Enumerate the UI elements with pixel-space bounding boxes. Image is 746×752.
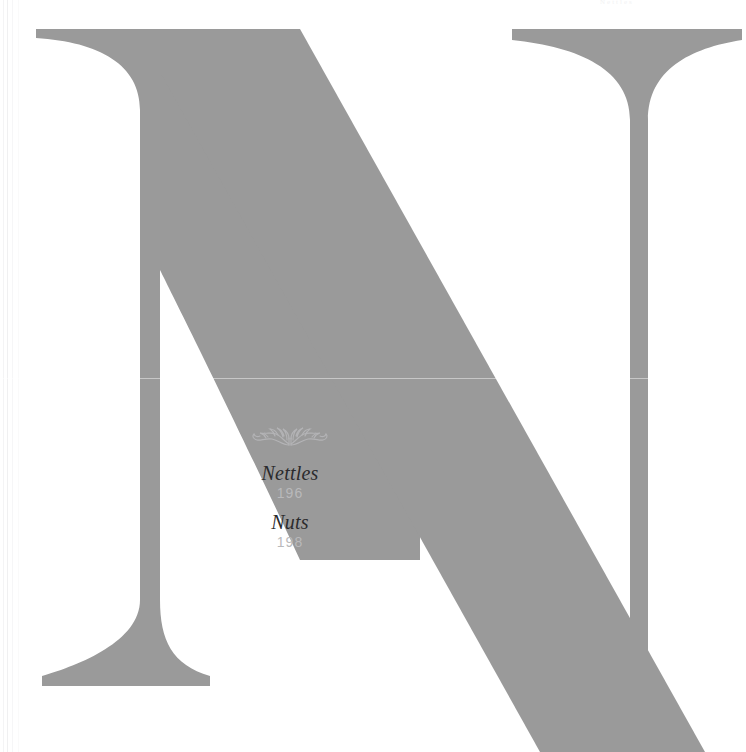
contents-entry-title: Nettles <box>186 462 394 484</box>
section-divider-page: Nettles <box>0 0 746 752</box>
contents-entry[interactable]: Nettles 196 <box>186 462 394 502</box>
section-contents-block: Nettles 196 Nuts 198 <box>186 424 394 551</box>
contents-entry-page-number: 198 <box>186 534 394 551</box>
contents-entry-title: Nuts <box>186 511 394 533</box>
drop-cap-letter-n <box>0 0 746 752</box>
contents-entry[interactable]: Nuts 198 <box>186 511 394 551</box>
contents-entry-page-number: 196 <box>186 485 394 502</box>
floral-flourish-ornament <box>248 424 332 448</box>
